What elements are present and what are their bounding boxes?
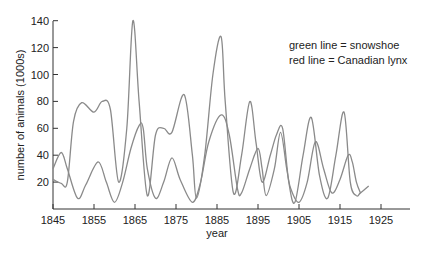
y-tick-label: 120 xyxy=(31,42,49,54)
y-tick-label: 140 xyxy=(31,15,49,27)
y-ticks: 20406080100120140 xyxy=(31,15,58,188)
x-tick-label: 1875 xyxy=(164,214,188,226)
x-tick-label: 1905 xyxy=(287,214,311,226)
legend-lynx: red line = Canadian lynx xyxy=(289,53,407,68)
x-tick-label: 1915 xyxy=(328,214,352,226)
y-tick-label: 20 xyxy=(37,176,49,188)
x-ticks: 184518551865187518851895190519151925 xyxy=(41,204,393,226)
x-tick-label: 1865 xyxy=(123,214,147,226)
lynx-line xyxy=(53,115,361,203)
x-tick-label: 1845 xyxy=(41,214,65,226)
y-tick-label: 80 xyxy=(37,95,49,107)
y-tick-label: 60 xyxy=(37,122,49,134)
x-tick-label: 1925 xyxy=(369,214,393,226)
x-tick-label: 1855 xyxy=(82,214,106,226)
x-tick-label: 1895 xyxy=(246,214,270,226)
legend: green line = snowshoe red line = Canadia… xyxy=(289,38,407,68)
y-axis-title: number of animals (1000s) xyxy=(14,50,26,181)
y-tick-label: 40 xyxy=(37,149,49,161)
legend-snowshoe: green line = snowshoe xyxy=(289,38,407,53)
x-tick-label: 1885 xyxy=(205,214,229,226)
y-tick-label: 100 xyxy=(31,69,49,81)
x-axis-title: year xyxy=(206,227,228,239)
